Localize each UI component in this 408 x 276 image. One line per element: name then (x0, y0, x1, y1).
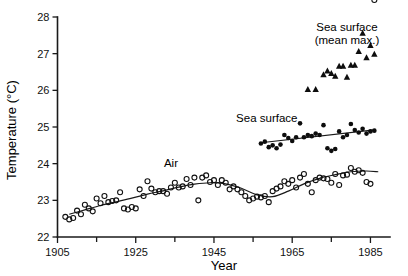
data-point-open-circle (78, 212, 83, 217)
data-point-filled-triangle (356, 48, 362, 54)
data-point-open-circle (309, 190, 314, 195)
y-tick-label: 22 (37, 231, 49, 243)
data-point-filled-circle (372, 128, 377, 133)
data-point-open-circle (278, 184, 283, 189)
data-point-filled-circle (325, 146, 330, 151)
data-point-filled-circle (270, 143, 275, 148)
data-point-filled-circle (259, 141, 264, 146)
data-point-filled-circle (294, 135, 299, 140)
data-point-open-circle (266, 200, 271, 205)
data-point-filled-circle (282, 133, 287, 138)
x-axis-title: Year (211, 258, 238, 273)
data-point-filled-circle (352, 128, 357, 133)
y-tick-label: 25 (37, 121, 49, 133)
sea-surface-label: Sea surface (236, 112, 297, 124)
data-point-filled-circle (360, 127, 365, 132)
data-point-filled-triangle (344, 74, 350, 80)
air-smooth-fit (69, 171, 378, 214)
data-point-open-circle (196, 198, 201, 203)
data-point-open-circle (145, 179, 150, 184)
y-tick-label: 27 (37, 48, 49, 60)
data-point-open-circle (204, 173, 209, 178)
data-point-filled-triangle (324, 68, 330, 74)
data-point-open-circle (102, 193, 107, 198)
data-point-filled-circle (313, 131, 318, 136)
data-point-filled-triangle (352, 62, 358, 68)
data-point-filled-circle (290, 139, 295, 144)
data-point-filled-circle (349, 122, 354, 127)
data-point-filled-circle (298, 121, 303, 126)
sea-surface-mean-max-label-line2: (mean max.) (315, 34, 380, 46)
data-point-filled-circle (306, 133, 311, 138)
data-point-filled-triangle (363, 54, 369, 60)
data-point-filled-circle (329, 149, 334, 154)
data-point-filled-circle (364, 131, 369, 136)
data-point-open-circle (192, 175, 197, 180)
data-point-open-circle (137, 187, 142, 192)
data-point-open-circle (329, 180, 334, 185)
chart-figure: 22232425262728 19051925194519651985 AirS… (0, 0, 408, 276)
data-point-open-circle (118, 190, 123, 195)
x-tick-label: 1965 (280, 246, 304, 258)
data-point-filled-circle (341, 135, 346, 140)
x-tick-label: 1925 (123, 246, 147, 258)
y-tick-label: 26 (37, 84, 49, 96)
data-point-filled-triangle (305, 86, 311, 92)
x-tick-label: 1905 (45, 246, 69, 258)
data-point-open-circle (184, 177, 189, 182)
data-point-filled-triangle (371, 51, 377, 57)
data-point-open-circle (301, 171, 306, 176)
data-point-filled-circle (309, 134, 314, 139)
x-axis-ticks: 19051925194519651985 (45, 237, 382, 258)
data-point-open-circle (372, 0, 377, 3)
x-tick-label: 1985 (358, 246, 382, 258)
sea-surface-mean-max-label-line1: Sea surface (316, 21, 377, 33)
y-tick-label: 24 (37, 158, 49, 170)
data-point-open-circle (172, 180, 177, 185)
fit-lines (69, 130, 378, 214)
data-point-filled-circle (317, 133, 322, 138)
data-point-filled-triangle (312, 86, 318, 92)
data-point-filled-triangle (340, 63, 346, 69)
data-point-open-circle (90, 209, 95, 214)
data-point-filled-circle (302, 135, 307, 140)
series-sea-surface (259, 121, 377, 153)
data-point-filled-circle (286, 136, 291, 141)
data-point-filled-circle (274, 146, 279, 151)
data-point-open-circle (223, 180, 228, 185)
y-axis-title: Temperature (°C) (4, 80, 19, 180)
data-point-filled-circle (356, 130, 361, 135)
data-point-filled-circle (278, 142, 283, 147)
data-point-open-circle (337, 182, 342, 187)
data-point-filled-circle (263, 139, 268, 144)
data-point-open-circle (94, 196, 99, 201)
air-label: Air (164, 157, 178, 169)
y-tick-label: 28 (37, 11, 49, 23)
temperature-trend-chart: 22232425262728 19051925194519651985 AirS… (0, 0, 408, 276)
data-point-filled-circle (337, 129, 342, 134)
data-point-open-circle (243, 193, 248, 198)
data-point-filled-circle (345, 133, 350, 138)
data-point-filled-circle (368, 129, 373, 134)
data-point-open-circle (290, 178, 295, 183)
y-axis-ticks: 22232425262728 (37, 11, 57, 243)
y-tick-label: 23 (37, 194, 49, 206)
data-point-open-circle (165, 191, 170, 196)
x-tick-label: 1945 (202, 246, 226, 258)
data-point-filled-circle (266, 145, 271, 150)
data-point-filled-circle (321, 123, 326, 128)
data-point-filled-circle (333, 147, 338, 152)
